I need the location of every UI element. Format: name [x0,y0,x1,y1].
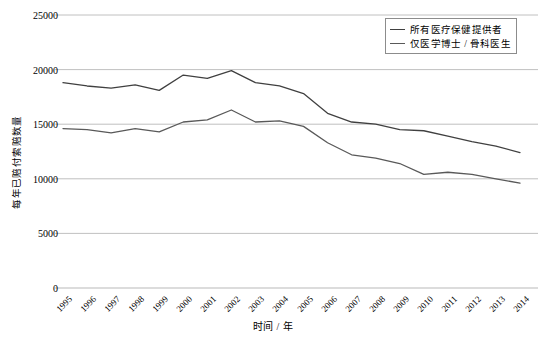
x-axis-title: 时间 / 年 [0,318,546,333]
legend-item-all-providers: 所有医疗保健提供者 [390,22,511,36]
legend: 所有医疗保健提供者 仅医学博士 / 骨科医生 [385,18,517,54]
legend-swatch-md-do-only [390,43,405,44]
line-chart: 0500010000150002000025000 19951996199719… [0,0,546,338]
legend-label-md-do-only: 仅医学博士 / 骨科医生 [410,36,511,50]
legend-label-all-providers: 所有医疗保健提供者 [410,22,503,36]
y-axis-title: 每年已赔付索赔数量 [9,97,23,227]
legend-item-md-do-only: 仅医学博士 / 骨科医生 [390,36,511,50]
legend-swatch-all-providers [390,29,405,30]
